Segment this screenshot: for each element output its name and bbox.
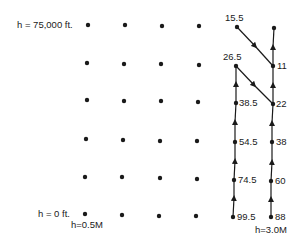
value-label: 26.5 — [223, 52, 242, 62]
top-altitude-label: h = 75,000 ft. — [17, 20, 73, 30]
value-label: 74.5 — [238, 175, 257, 185]
value-label: 22 — [276, 99, 287, 109]
value-label: 38 — [276, 137, 287, 147]
value-label: 11 — [277, 61, 287, 71]
value-label: 88 — [275, 212, 286, 222]
grid-dots — [83, 23, 276, 219]
right-mass-label: h=3.0M — [255, 225, 287, 235]
value-label: 54.5 — [239, 137, 258, 147]
left-mass-label: h=0.5M — [71, 220, 103, 230]
value-label: 15.5 — [225, 13, 244, 23]
value-label: 99.5 — [237, 212, 256, 222]
value-label: 60 — [275, 176, 286, 186]
value-label: 38.5 — [239, 98, 258, 108]
bottom-altitude-label: h = 0 ft. — [38, 209, 70, 219]
